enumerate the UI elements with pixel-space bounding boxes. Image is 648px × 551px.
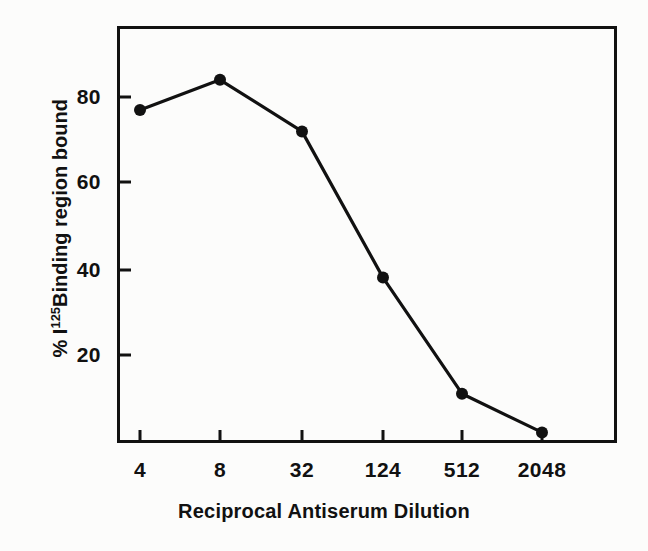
y-axis-title: % I125Binding region bound bbox=[48, 18, 73, 438]
y-axis-title-superscript: 125 bbox=[48, 307, 63, 329]
y-axis-title-rest: Binding region bound bbox=[49, 99, 71, 307]
x-tick-label-512: 512 bbox=[417, 458, 507, 482]
plot-frame bbox=[117, 26, 617, 443]
y-axis-title-element: I bbox=[49, 329, 71, 335]
chart-figure: 80 60 40 20 4 8 32 124 512 2048 Reciproc… bbox=[0, 0, 648, 551]
x-tick-label-124: 124 bbox=[338, 458, 428, 482]
x-tick-label-8: 8 bbox=[175, 458, 265, 482]
x-tick-label-4: 4 bbox=[95, 458, 185, 482]
y-axis-title-percent: % bbox=[49, 340, 71, 358]
x-tick-label-2048: 2048 bbox=[497, 458, 587, 482]
x-tick-label-32: 32 bbox=[257, 458, 347, 482]
x-axis-title: Reciprocal Antiserum Dilution bbox=[0, 500, 648, 523]
